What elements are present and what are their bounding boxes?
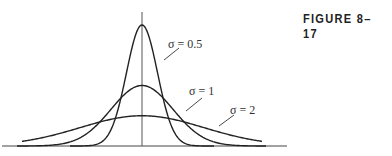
leader-sigma-1 [186, 98, 202, 111]
label-sigma-1: σ = 1 [189, 84, 214, 99]
label-sigma-2: σ = 2 [230, 103, 255, 118]
label-sigma-0-5: σ = 0.5 [168, 37, 202, 52]
figure-label: FIGURE 8–17 [303, 11, 379, 41]
